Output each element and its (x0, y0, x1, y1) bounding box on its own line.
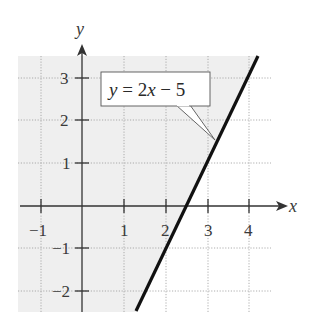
graph: x y −1 1 2 3 4 3 2 1 −1 −2 y = 2x − 5 (0, 0, 314, 327)
y-tick-label: −1 (52, 239, 70, 258)
equation-var: y (107, 79, 118, 100)
x-tick-label: 4 (244, 221, 253, 240)
x-axis-label: x (288, 196, 297, 216)
y-tick-label: −2 (52, 282, 70, 301)
y-tick-label: 2 (60, 111, 69, 130)
x-tick-label: 3 (204, 221, 213, 240)
x-tick-label: −1 (29, 221, 47, 240)
equation-label: y = 2x − 5 (107, 79, 185, 100)
x-tick-label: 2 (161, 221, 170, 240)
y-tick-label: 3 (60, 69, 69, 88)
y-axis-label: y (74, 19, 84, 39)
equation-rest: = 2 (117, 79, 147, 100)
x-tick-label: 1 (120, 221, 129, 240)
y-tick-label: 1 (62, 154, 71, 173)
equation-tail: − 5 (156, 79, 186, 100)
